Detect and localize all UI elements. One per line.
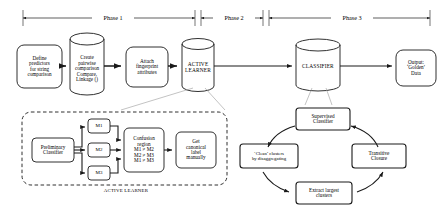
phase-label-2: Phase 2	[213, 11, 255, 25]
node-preliminary-classifier: Preliminary Classifier	[32, 138, 74, 162]
node-supervised-classifier: Supervised Classifier	[296, 108, 350, 130]
node-output-golden-data: Output: ‘Golden’ Data	[396, 50, 436, 86]
node-create-pairwise: Create pairwise comparison Compare. Link…	[70, 47, 104, 91]
node-active-learner: ACTIVE LEARNER	[182, 50, 214, 86]
node-get-canonical-label: Get canonical label manually	[176, 132, 216, 168]
phase-label-3: Phase 3	[331, 11, 373, 25]
node-model-m2: M2	[88, 143, 110, 157]
node-define-predictors: Define predictors for string comparison	[17, 45, 62, 88]
diagram-canvas: Phase 1 Phase 2 Phase 3 Define predictor…	[0, 0, 448, 221]
node-extract-largest-clusters: Extract largest clusters	[296, 182, 352, 204]
node-model-m1: M1	[88, 119, 110, 133]
callout-lines	[121, 88, 332, 110]
node-transitive-closure: Transitive Closure	[352, 144, 406, 168]
active-learner-group-caption: ACTIVE LEARNER	[84, 186, 168, 195]
node-model-m3: M3	[88, 166, 110, 180]
diagram-vector-layer	[0, 0, 448, 221]
node-confusion-region: Confusion region M1 ≠ M2 M2 ≠ M3 M1 ≠ M3	[124, 128, 164, 172]
phase-label-1: Phase 1	[92, 11, 134, 25]
node-clean-clusters: ‘Clean’ clusters by disaggregating	[240, 144, 298, 168]
node-classifier: CLASSIFIER	[296, 52, 340, 82]
node-attach-fingerprint: Attach fingerprint attributes	[126, 47, 168, 87]
